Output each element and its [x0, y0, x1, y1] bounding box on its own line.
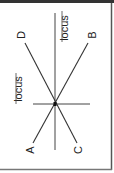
label-a: A	[24, 146, 36, 154]
line-ba	[33, 43, 88, 143]
locus-label-lower: locus	[12, 76, 24, 102]
locus-diagram: D B A C locus locus	[0, 0, 114, 173]
top-border	[0, 0, 114, 3]
label-c: C	[72, 146, 84, 154]
label-d: D	[15, 31, 27, 39]
diagram-frame: D B A C locus locus	[0, 0, 114, 173]
label-b: B	[86, 31, 98, 38]
locus-label-upper: locus	[58, 15, 70, 41]
line-dc	[25, 43, 77, 143]
intersection-point	[54, 102, 57, 106]
